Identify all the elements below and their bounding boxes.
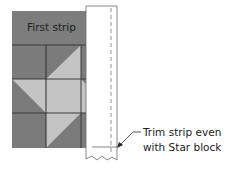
quilt-diagram: First strip Trim strip even wit <box>0 0 231 170</box>
strip-outline <box>86 6 117 160</box>
callout-text-line2: with Star block <box>143 141 222 153</box>
callout-leader <box>117 132 141 148</box>
block-cell-r3-left <box>12 113 46 148</box>
added-strip <box>86 6 117 160</box>
callout-text-line1: Trim strip even <box>142 126 221 138</box>
first-strip-label: First strip <box>27 21 76 33</box>
block-cell-r1-left <box>12 45 46 79</box>
block-cell-r2-right <box>46 79 81 113</box>
block-edge-light <box>81 79 86 113</box>
star-block <box>12 45 86 148</box>
leader-line <box>120 132 141 145</box>
